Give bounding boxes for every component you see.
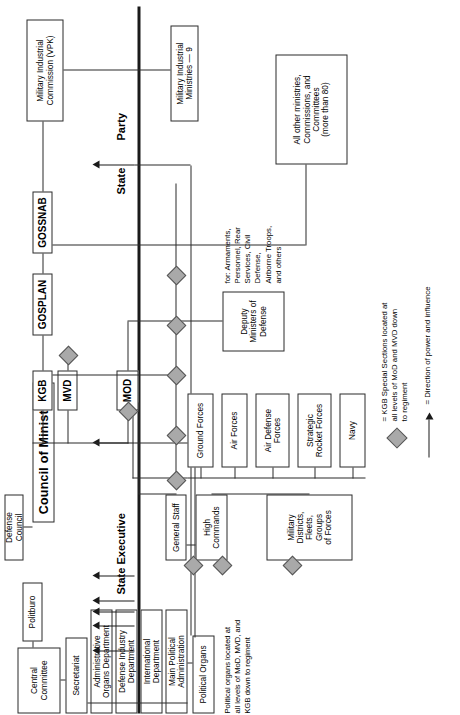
- com-stub: [32, 442, 42, 443]
- link-generalstaff-top: [138, 402, 139, 494]
- node-military-industrial-ministries[interactable]: Military Industrial Ministries — 9: [170, 25, 198, 121]
- link-mod-to-services-leg: [132, 410, 133, 478]
- link-mod-generalstaff-v: [138, 493, 176, 494]
- node-main-political-admin[interactable]: Main Political Administration: [165, 609, 187, 713]
- node-mvd[interactable]: MVD: [57, 370, 77, 410]
- arrow-politburo-to-state: [98, 611, 134, 612]
- node-gosplan[interactable]: GOSPLAN: [32, 273, 52, 335]
- link-gs-hc: [186, 544, 195, 545]
- services-spine: [187, 477, 365, 478]
- node-international-dept[interactable]: International Department: [140, 609, 162, 713]
- service-air-defense-forces[interactable]: Air Defense Forces: [255, 393, 289, 467]
- kgb-special-section-diamond-1: [166, 470, 186, 490]
- link-down-to-all-other: [305, 164, 306, 245]
- node-kgb[interactable]: KGB: [32, 370, 52, 410]
- node-military-districts[interactable]: Military Districts, Fleets, Groups of Fo…: [266, 494, 352, 560]
- link-top-row-down: [52, 244, 305, 245]
- node-defense-council[interactable]: Defense Council: [4, 494, 23, 560]
- link-kgb-gosplan: [42, 335, 43, 370]
- label-party-bottom: Party: [114, 112, 126, 140]
- link-svc-ground: [200, 467, 201, 478]
- service-air-forces[interactable]: Air Forces: [221, 393, 247, 467]
- kgb-special-section-diamond-mvd: [58, 345, 78, 365]
- link-mod-deputy: [127, 321, 128, 370]
- service-navy[interactable]: Navy: [339, 393, 365, 467]
- link-svc-srf: [314, 467, 315, 478]
- kgb-special-section-diamond-5: [166, 265, 186, 285]
- link-svc-navy: [352, 467, 353, 478]
- node-political-organs[interactable]: Political Organs: [192, 635, 214, 713]
- node-secretariat[interactable]: Secretariat: [65, 637, 87, 713]
- link-hc-md: [211, 493, 309, 494]
- link-cc-politburo: [32, 641, 33, 647]
- legend-arrow-icon: [428, 419, 429, 457]
- link-vpk-to-mi-ministries: [63, 69, 170, 70]
- node-high-commands[interactable]: High Commands: [195, 494, 227, 560]
- link-svc-air: [234, 467, 235, 478]
- node-vpk[interactable]: Military Industrial Commission (VPK): [26, 19, 63, 121]
- service-ground-forces[interactable]: Ground Forces: [187, 393, 213, 467]
- node-gossnab[interactable]: GOSSNAB: [32, 191, 52, 253]
- legend-diamond-text: = KGB Special Sections located at all le…: [379, 191, 409, 421]
- node-deputy-ministers-of-defense[interactable]: Deputy Ministers of Defense: [222, 291, 284, 351]
- link-gossnab-vpk: [42, 121, 43, 191]
- service-strategic-rocket-forces[interactable]: Strategic Rocket Forces: [297, 393, 331, 467]
- arrow-admin-organs-to-state: [98, 625, 134, 626]
- kgb-special-section-diamond-3: [166, 365, 186, 385]
- link-svc-airdef: [272, 467, 273, 478]
- link-cc-secretariat: [60, 679, 65, 680]
- diagram-root: Party State Executive Party State Centra…: [0, 0, 460, 715]
- arrow-legend-riser: [134, 164, 190, 165]
- com-right-spine: [42, 442, 128, 443]
- arrow-international-to-state: [98, 575, 134, 576]
- label-state-executive: State Executive: [114, 513, 126, 594]
- node-general-staff[interactable]: General Staff: [165, 494, 186, 560]
- arrow-secretariat-to-state: [98, 650, 134, 651]
- legend-arrow-text: = Direction of power and influence: [422, 174, 432, 404]
- link-com-to-mvd: [67, 410, 68, 443]
- arrow-defense-industry-to-state: [98, 600, 134, 601]
- arrow-party-to-state-legend: [98, 164, 134, 165]
- link-defense-council-down: [23, 526, 32, 527]
- note-deputy-ministers: for: Armaments, Personnel, Rear Services…: [222, 187, 283, 283]
- node-central-committee[interactable]: Central Committee: [17, 647, 60, 713]
- kgb-special-section-diamond-4: [166, 315, 186, 335]
- link-gosplan-gossnab: [42, 253, 43, 273]
- node-all-other-ministries[interactable]: All other ministries, Commissions, and C…: [275, 54, 347, 164]
- node-politburo[interactable]: Politburo: [22, 582, 42, 641]
- legend-diamond-icon: [386, 427, 407, 448]
- party-department-spine: [87, 702, 187, 703]
- party-state-divider: [137, 6, 140, 713]
- arrow-po-riser: [134, 442, 194, 443]
- label-state-bottom: State: [114, 167, 126, 194]
- org-chart-canvas: Party State Executive Party State Centra…: [0, 0, 460, 715]
- link-com-to-kgb: [42, 410, 43, 443]
- link-mpa-po-vert: [187, 662, 192, 663]
- link-kgb-down: [52, 374, 175, 375]
